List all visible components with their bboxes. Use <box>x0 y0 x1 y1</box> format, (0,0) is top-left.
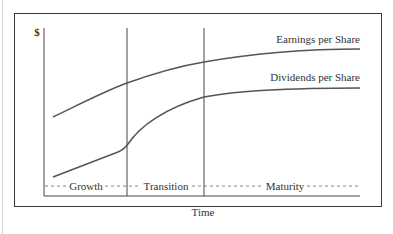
earnings-curve <box>53 49 360 117</box>
phase-maturity-label: Maturity <box>266 180 305 192</box>
lifecycle-chart: $ Earnings per Share Dividends per Share… <box>0 0 393 234</box>
dividends-label: Dividends per Share <box>270 71 360 83</box>
phase-transition-label: Transition <box>144 180 189 192</box>
x-axis-label: Time <box>192 206 215 218</box>
earnings-label: Earnings per Share <box>276 33 360 45</box>
dividends-curve <box>53 88 360 177</box>
phase-growth-label: Growth <box>69 180 103 192</box>
y-axis-label: $ <box>34 26 40 38</box>
